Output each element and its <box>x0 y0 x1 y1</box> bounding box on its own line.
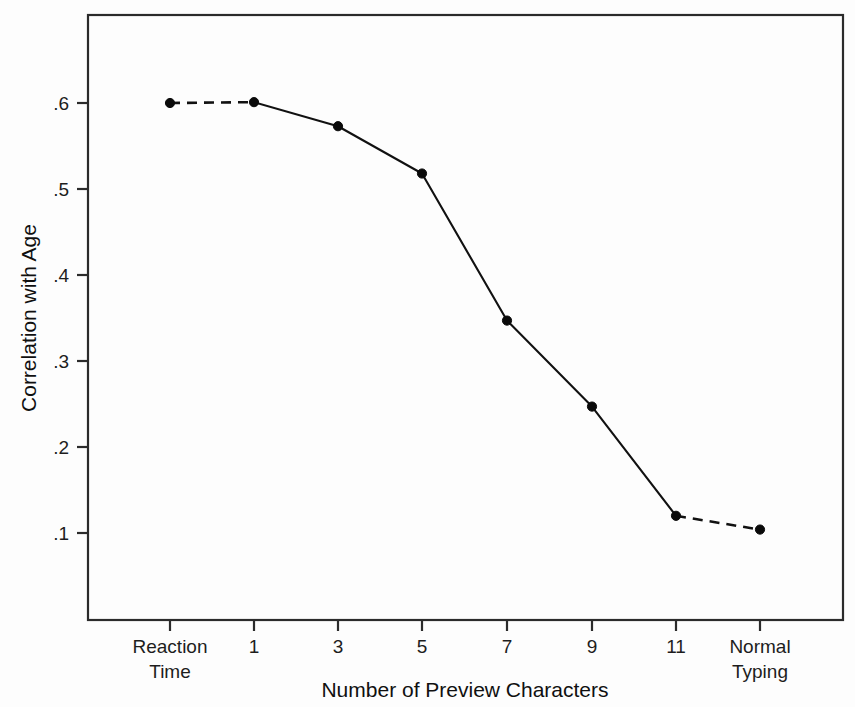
x-tick-label: 5 <box>417 636 428 657</box>
data-point-marker <box>755 525 764 534</box>
data-point-marker <box>502 316 511 325</box>
y-tick-label: .5 <box>53 179 69 200</box>
x-tick-label: 3 <box>333 636 344 657</box>
x-tick-label: Typing <box>732 661 788 682</box>
x-tick-label: 1 <box>249 636 260 657</box>
data-point-marker <box>587 402 596 411</box>
data-point-marker <box>165 98 174 107</box>
data-point-marker <box>333 122 342 131</box>
data-point-marker <box>249 98 258 107</box>
x-axis-title: Number of Preview Characters <box>321 678 608 701</box>
x-tick-label: Time <box>149 661 191 682</box>
data-point-marker <box>417 169 426 178</box>
x-tick-label: Normal <box>729 636 790 657</box>
y-tick-label: .4 <box>53 265 69 286</box>
y-axis-title: Correlation with Age <box>17 224 40 412</box>
x-tick-label: 11 <box>666 636 686 657</box>
y-tick-label: .3 <box>53 351 69 372</box>
x-tick-label: 9 <box>587 636 598 657</box>
y-tick-label: .6 <box>53 93 69 114</box>
y-tick-label: .2 <box>53 437 69 458</box>
correlation-line-chart: .6.5.4.3.2.1 ReactionTime1357911NormalTy… <box>0 0 855 707</box>
chart-page: .6.5.4.3.2.1 ReactionTime1357911NormalTy… <box>0 0 855 707</box>
y-tick-label: .1 <box>53 523 69 544</box>
x-tick-label: Reaction <box>133 636 208 657</box>
chart-background <box>0 0 855 707</box>
data-point-marker <box>671 511 680 520</box>
x-tick-label: 7 <box>502 636 513 657</box>
